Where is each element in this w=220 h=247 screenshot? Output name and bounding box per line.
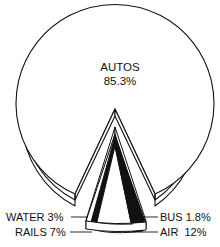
air-label: AIR 12%: [160, 226, 206, 238]
water-label: WATER 3%: [6, 211, 63, 223]
rails-label: RAILS 7%: [15, 226, 66, 238]
bus-label: BUS 1.8%: [160, 211, 211, 223]
autos-label: AUTOS: [80, 60, 160, 74]
autos-value: 85.3%: [80, 74, 160, 88]
pie-chart: [0, 0, 220, 247]
